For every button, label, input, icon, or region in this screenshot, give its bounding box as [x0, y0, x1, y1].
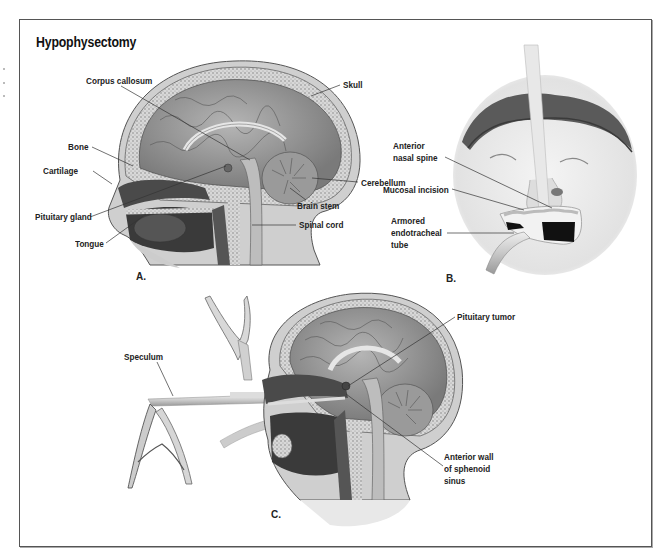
- label-speculum: Speculum: [124, 351, 163, 363]
- label-skull: Skull: [343, 79, 363, 91]
- panel-b-illustration: [453, 45, 637, 275]
- panel-label-c: C.: [271, 509, 281, 520]
- label-armored-tube-line1: Armored: [391, 215, 425, 227]
- label-spinal-cord: Spinal cord: [299, 219, 343, 231]
- label-anterior-nasal-spine-line2: nasal spine: [393, 152, 438, 164]
- label-bone: Bone: [68, 141, 88, 153]
- label-cartilage: Cartilage: [43, 165, 78, 177]
- label-tongue: Tongue: [75, 238, 104, 250]
- panel-label-a: A.: [136, 271, 146, 282]
- panel-c-illustration: [128, 293, 463, 526]
- label-anterior-nasal-spine-line1: Anterior: [393, 140, 425, 152]
- panel-label-b: B.: [446, 273, 456, 284]
- label-anterior-wall-line1: Anterior wall: [444, 451, 493, 463]
- label-anterior-wall-line3: sinus: [444, 475, 465, 487]
- label-pituitary-tumor: Pituitary tumor: [457, 311, 515, 323]
- label-anterior-wall-line2: of sphenoid: [444, 463, 490, 475]
- label-armored-tube-line3: tube: [391, 239, 408, 251]
- label-corpus-callosum: Corpus callosum: [86, 75, 152, 87]
- figure-title: Hypophysectomy: [36, 34, 136, 50]
- label-mucosal-incision: Mucosal incision: [383, 184, 449, 196]
- label-brain-stem: Brain stem: [297, 200, 339, 212]
- label-armored-tube-line2: endotracheal: [391, 227, 442, 239]
- label-pituitary-gland: Pituitary gland: [35, 211, 92, 223]
